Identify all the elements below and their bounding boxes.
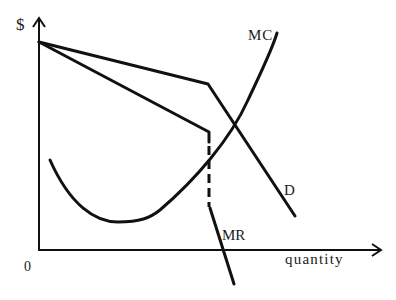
demand-label: D <box>284 182 295 198</box>
demand-curve <box>39 42 295 216</box>
x-axis-label: quantity <box>285 251 344 267</box>
y-axis-label: $ <box>16 15 25 34</box>
mr-label: MR <box>222 227 245 243</box>
mc-curve <box>50 33 277 222</box>
mr-upper-segment <box>39 42 209 142</box>
mr-lower-segment <box>210 208 234 284</box>
origin-label: 0 <box>24 259 31 274</box>
kinked-demand-diagram: $ quantity 0 D MR MC <box>0 0 396 300</box>
mc-label: MC <box>248 27 273 43</box>
